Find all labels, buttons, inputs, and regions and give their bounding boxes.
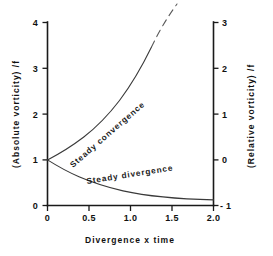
chart-figure: 4 3 2 1 0 (Absolute vorticity) /f 0 0.5 … [0,0,273,256]
curve-steady-convergence-extrapolation [152,4,178,47]
left-tick-label-1: 1 [33,155,38,165]
annotation-steady-divergence: Steady divergence [86,163,174,186]
left-tick-label-0: 0 [33,201,38,211]
right-axis-title: (Relative vorticity) /f [246,64,256,168]
left-tick-label-3: 3 [33,64,38,74]
x-tick-label-4: 2.0 [207,213,220,223]
x-axis-title: Divergence x time [85,235,175,245]
right-tick-label-1: 1 [222,110,227,120]
annotation-steady-convergence: Steady convergence [68,100,146,170]
right-tick-label-3: 3 [222,18,227,28]
right-tick-label-minus1: - 1 [220,201,231,211]
left-tick-label-2: 2 [33,110,38,120]
left-axis-title: (Absolute vorticity) /f [11,60,21,168]
x-tick-label-2: 1.0 [124,213,137,223]
x-axis-ticks [48,206,214,212]
right-tick-label-0: 0 [222,155,227,165]
x-tick-label-0: 0 [45,213,50,223]
left-tick-label-4: 4 [33,18,38,28]
vorticity-chart: 4 3 2 1 0 (Absolute vorticity) /f 0 0.5 … [0,0,273,256]
right-tick-label-2: 2 [222,64,227,74]
x-tick-label-3: 1.5 [165,213,178,223]
x-tick-label-1: 0.5 [82,213,95,223]
